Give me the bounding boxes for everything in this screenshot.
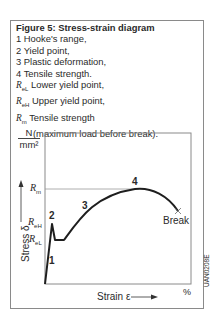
x-axis-label: Strain ε [97, 291, 130, 302]
x-axis-unit: % [183, 287, 191, 297]
y-axis-label: Stress δ [20, 225, 31, 262]
annotation-1: 1 [49, 255, 55, 266]
stress-strain-curve [45, 189, 178, 284]
y-axis-unit: N mm² [18, 127, 40, 150]
figure-code: UAN0208E [203, 254, 210, 287]
break-label: Break [163, 215, 189, 226]
rm-label: Rm [30, 182, 41, 195]
annotation-2: 2 [49, 210, 55, 221]
plot-box [45, 133, 191, 284]
annotation-4: 4 [132, 176, 138, 187]
annotation-3: 3 [82, 200, 88, 211]
stress-strain-plot [0, 0, 216, 317]
